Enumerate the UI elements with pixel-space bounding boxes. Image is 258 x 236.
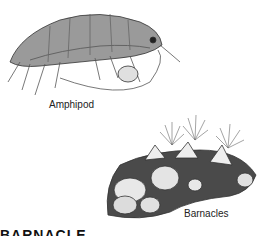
amphipod-label: Amphipod	[49, 99, 94, 110]
illustration	[0, 0, 258, 236]
amphipod-drawing	[8, 14, 180, 95]
section-heading: BARNACLE	[0, 228, 87, 236]
barnacles-label: Barnacles	[184, 208, 228, 219]
barnacles-drawing	[107, 115, 256, 218]
